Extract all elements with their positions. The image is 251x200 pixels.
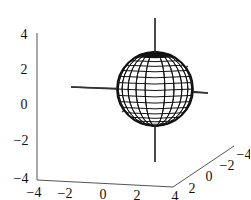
y-tick: 0 [206, 169, 213, 184]
z-tick-labels: 4 2 0 −2 −4 [14, 27, 29, 186]
z-tick: 4 [21, 27, 28, 42]
x-tick: −2 [58, 186, 73, 200]
y-tick: −4 [237, 147, 250, 162]
y-tick: −2 [220, 158, 235, 173]
x-tick: 4 [172, 189, 179, 200]
wireframe-sphere [71, 18, 208, 162]
sphere-3d-plot: 4 2 0 −2 −4 −4 −2 0 2 4 2 0 −2 −4 [0, 0, 250, 200]
x-tick-labels: −4 −2 0 2 4 [27, 185, 179, 200]
z-tick: 0 [21, 97, 28, 112]
y-tick-labels: 2 0 −2 −4 [189, 147, 251, 196]
z-tick: 2 [21, 62, 28, 77]
x-tick: 0 [100, 187, 107, 200]
x-tick: 2 [134, 188, 141, 200]
x-tick: −4 [27, 185, 42, 200]
z-tick: −2 [14, 133, 29, 148]
z-tick: −4 [14, 171, 29, 186]
y-tick: 2 [189, 181, 196, 196]
